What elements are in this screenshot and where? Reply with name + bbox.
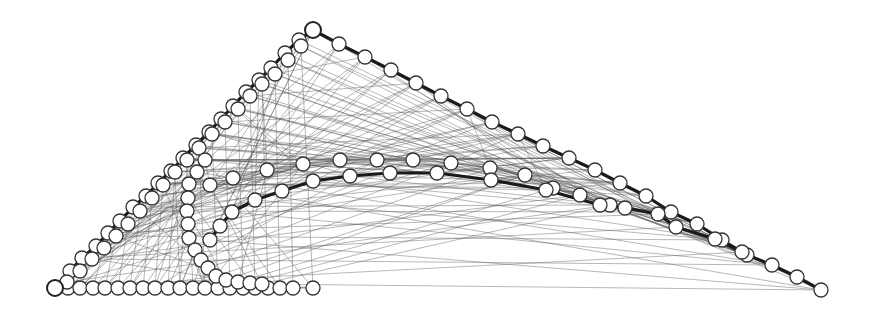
graph-node	[460, 102, 474, 116]
graph-node	[148, 281, 162, 295]
graph-node	[198, 153, 212, 167]
graph-node	[243, 89, 257, 103]
graph-node	[275, 184, 289, 198]
anchor-node	[305, 22, 321, 38]
thick-edge-chains	[55, 30, 821, 290]
graph-node	[85, 252, 99, 266]
thin-edge	[140, 211, 671, 212]
graph-node	[708, 232, 722, 246]
graph-node	[231, 102, 245, 116]
graph-node	[213, 219, 227, 233]
graph-diagram	[0, 0, 875, 321]
graph-node	[123, 281, 137, 295]
graph-node	[409, 76, 423, 90]
graph-node	[485, 115, 499, 129]
graph-node	[384, 63, 398, 77]
graph-node	[109, 229, 123, 243]
graph-node	[225, 205, 239, 219]
graph-node	[190, 165, 204, 179]
thin-edge	[255, 200, 722, 240]
graph-node	[182, 177, 196, 191]
thin-edge-mesh	[55, 30, 821, 290]
graph-node	[306, 281, 320, 295]
graph-node	[173, 281, 187, 295]
graph-node	[205, 127, 219, 141]
graph-node	[639, 189, 653, 203]
graph-node	[203, 178, 217, 192]
graph-node	[383, 166, 397, 180]
graph-node	[156, 178, 170, 192]
graph-node	[255, 77, 269, 91]
graph-node	[332, 37, 346, 51]
graph-node	[790, 270, 804, 284]
graph-node	[248, 193, 262, 207]
graph-node	[573, 188, 587, 202]
graph-node	[286, 281, 300, 295]
thin-edge	[255, 83, 416, 200]
graph-node	[198, 281, 212, 295]
graph-node	[588, 163, 602, 177]
graph-node	[562, 151, 576, 165]
graph-node	[180, 153, 194, 167]
graph-node	[168, 165, 182, 179]
graph-node	[226, 171, 240, 185]
graph-node	[181, 191, 195, 205]
graph-node	[296, 157, 310, 171]
graph-node	[406, 153, 420, 167]
graph-node	[294, 39, 308, 53]
graph-node	[255, 277, 269, 291]
graph-node	[203, 233, 217, 247]
thin-edge	[67, 205, 610, 282]
graph-node	[618, 201, 632, 215]
graph-node	[518, 168, 532, 182]
thin-edge	[340, 109, 467, 160]
graph-node	[273, 281, 287, 295]
graph-node	[765, 258, 779, 272]
graph-node	[664, 205, 678, 219]
graph-node	[306, 174, 320, 188]
graph-node	[613, 176, 627, 190]
graph-node	[434, 89, 448, 103]
thin-edge	[285, 53, 676, 227]
graph-node	[181, 217, 195, 231]
graph-node	[690, 217, 704, 231]
graph-node	[260, 163, 274, 177]
graph-node	[268, 67, 282, 81]
thin-edge	[133, 205, 600, 207]
graph-node	[133, 204, 147, 218]
graph-node	[511, 127, 525, 141]
graph-node	[735, 245, 749, 259]
graph-node	[536, 139, 550, 153]
thin-edge	[610, 205, 821, 290]
graph-node	[814, 283, 828, 297]
graph-node	[370, 153, 384, 167]
graph-node	[539, 183, 553, 197]
graph-node	[145, 191, 159, 205]
graph-node	[358, 50, 372, 64]
graph-node	[121, 217, 135, 231]
thin-edge	[238, 188, 553, 282]
graph-node	[73, 264, 87, 278]
graph-node	[97, 241, 111, 255]
graph-node	[484, 173, 498, 187]
graph-node	[73, 281, 87, 295]
graph-node	[651, 207, 665, 221]
graph-node	[281, 53, 295, 67]
graph-node	[333, 153, 347, 167]
graph-node	[430, 166, 444, 180]
anchor-node	[47, 280, 63, 296]
graph-node	[180, 204, 194, 218]
graph-node	[593, 198, 607, 212]
graph-node	[218, 115, 232, 129]
graph-node	[669, 220, 683, 234]
graph-node	[444, 156, 458, 170]
graph-node	[343, 169, 357, 183]
graph-node	[98, 281, 112, 295]
